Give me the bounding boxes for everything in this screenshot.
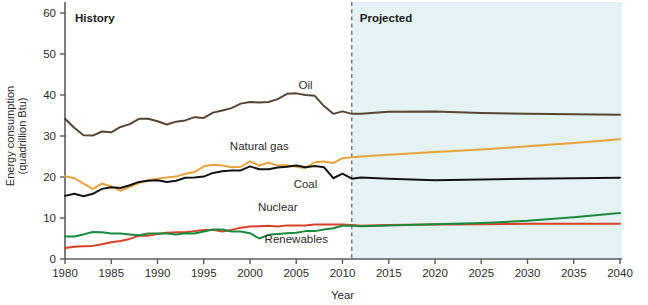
y-tick-label: 60 xyxy=(43,7,56,19)
projected-region-band xyxy=(352,2,622,259)
x-tick-label: 1985 xyxy=(98,267,124,279)
series-label-coal: Coal xyxy=(294,178,318,190)
x-tick-label: 2005 xyxy=(283,267,309,279)
x-tick-label: 2035 xyxy=(561,267,587,279)
x-tick-label: 2015 xyxy=(376,267,402,279)
x-tick-label: 1980 xyxy=(52,267,78,279)
y-tick-label: 30 xyxy=(43,130,56,142)
series-label-nuclear: Nuclear xyxy=(258,201,298,213)
y-axis-title-line1: Energy consumption xyxy=(4,86,16,186)
x-tick-label: 2010 xyxy=(330,267,356,279)
y-tick-label: 20 xyxy=(43,171,56,183)
x-tick-label: 2030 xyxy=(515,267,541,279)
history-period-label: History xyxy=(75,12,115,24)
x-tick-label: 2040 xyxy=(607,267,633,279)
chart-canvas: 0102030405060 19801985199019952000200520… xyxy=(0,0,648,305)
y-tick-label: 0 xyxy=(50,253,56,265)
x-tick-label: 2000 xyxy=(237,267,263,279)
x-tick-label: 1995 xyxy=(191,267,217,279)
x-tick-label: 2020 xyxy=(422,267,448,279)
y-tick-label: 10 xyxy=(43,212,56,224)
y-axis-title-line2: (quadrillion Btu) xyxy=(16,97,28,174)
series-label-oil: Oil xyxy=(298,79,312,91)
y-tick-label: 50 xyxy=(43,48,56,60)
series-label-natural-gas: Natural gas xyxy=(230,140,289,152)
x-tick-label: 2025 xyxy=(468,267,494,279)
energy-consumption-chart: 0102030405060 19801985199019952000200520… xyxy=(0,0,648,305)
y-tick-label: 40 xyxy=(43,89,56,101)
x-axis-title: Year xyxy=(331,289,354,301)
projected-period-label: Projected xyxy=(360,12,412,24)
x-tick-label: 1990 xyxy=(145,267,171,279)
series-label-renewables: Renewables xyxy=(265,233,329,245)
